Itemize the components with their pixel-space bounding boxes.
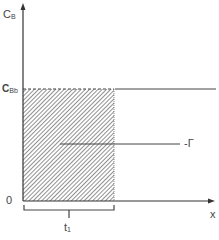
level-label: CBb [2,84,18,94]
diagram-canvas [0,0,219,240]
hatched-region [23,89,114,201]
y-axis-arrow-icon [21,3,26,10]
region-label: -Γ [184,138,194,149]
x-axis-arrow-icon [208,199,215,204]
y-axis-label: CB [3,9,16,20]
brace [24,205,114,218]
x-axis-label: x [210,209,216,220]
brace-label: t1 [64,222,71,233]
origin-label: 0 [6,195,12,206]
